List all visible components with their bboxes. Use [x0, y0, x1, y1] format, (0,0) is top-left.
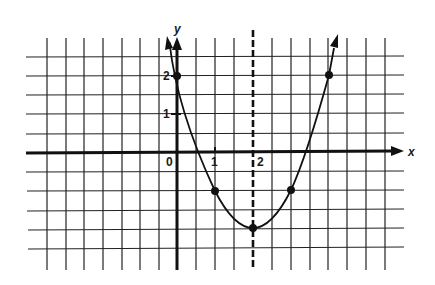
- point-2-neg2: [249, 224, 257, 232]
- x-axis-label: x: [407, 145, 416, 159]
- point-3-neg1: [287, 186, 295, 194]
- point-1-neg1: [211, 187, 219, 195]
- point-0-2: [173, 72, 181, 80]
- point-4-2: [325, 71, 333, 79]
- y-tick-label-1: 1: [163, 107, 170, 121]
- parabola-graph: y x 0 1 2 1 2: [0, 0, 435, 285]
- curve-arrow-right: [330, 34, 338, 48]
- x-tick-label-1: 1: [211, 155, 218, 169]
- y-tick-label-2: 2: [163, 69, 170, 83]
- curve-arrow-left: [165, 36, 173, 50]
- origin-label: 0: [166, 155, 173, 169]
- x-tick-label-2: 2: [257, 155, 264, 169]
- y-axis-label: y: [173, 22, 182, 36]
